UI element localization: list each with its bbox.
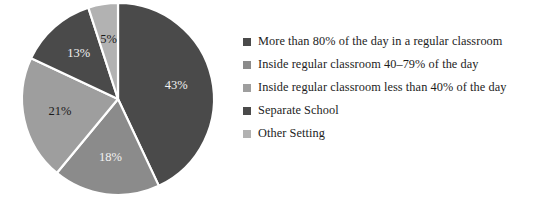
legend-item[interactable]: Other Setting — [241, 122, 541, 145]
legend-swatch-icon — [243, 130, 251, 138]
pie-chart-svg: 43%18%21%13%5% — [0, 0, 240, 206]
legend-item[interactable]: Inside regular classroom less than 40% o… — [241, 76, 541, 99]
legend-item[interactable]: Inside regular classroom 40–79% of the d… — [241, 53, 541, 76]
legend-item-label: Other Setting — [258, 126, 325, 141]
legend-item-label: More than 80% of the day in a regular cl… — [258, 34, 503, 49]
legend-item[interactable]: More than 80% of the day in a regular cl… — [241, 30, 541, 53]
legend-item[interactable]: Separate School — [241, 99, 541, 122]
legend-swatch-icon — [243, 38, 251, 46]
legend-item-label: Separate School — [258, 103, 339, 118]
legend-swatch-icon — [243, 61, 251, 69]
pie-chart-area: 43%18%21%13%5% — [0, 0, 240, 206]
pie-slice-value-label: 5% — [100, 32, 117, 46]
pie-slice-value-label: 13% — [67, 46, 90, 60]
pie-slices-group — [22, 3, 214, 195]
pie-slice-value-label: 18% — [99, 150, 122, 164]
legend-swatch-icon — [243, 107, 251, 115]
pie-chart-figure: 43%18%21%13%5% More than 80% of the day … — [0, 0, 546, 206]
legend-item-label: Inside regular classroom less than 40% o… — [258, 80, 506, 95]
legend-item-label: Inside regular classroom 40–79% of the d… — [258, 57, 479, 72]
chart-legend: More than 80% of the day in a regular cl… — [241, 30, 541, 145]
pie-slice-value-label: 43% — [165, 78, 188, 92]
legend-swatch-icon — [243, 84, 251, 92]
pie-slice-value-label: 21% — [48, 104, 71, 118]
